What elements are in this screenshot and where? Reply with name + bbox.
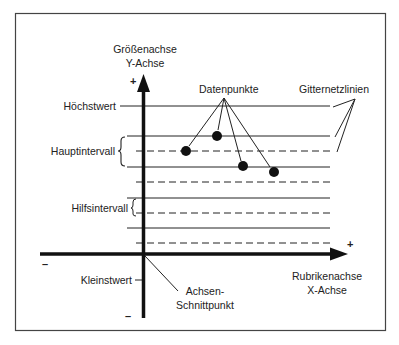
x-axis-plus-sign: + bbox=[347, 239, 353, 250]
major-gridlines bbox=[120, 106, 330, 228]
data-point-callouts bbox=[189, 98, 270, 167]
y-axis-title-line1: Größenachse bbox=[100, 43, 190, 55]
x-axis bbox=[40, 248, 348, 261]
major-interval-label: Hauptintervall bbox=[20, 145, 115, 157]
y-axis-minus-sign: – bbox=[125, 311, 131, 322]
data-points bbox=[181, 131, 279, 177]
data-point bbox=[212, 131, 222, 141]
max-value-label: Höchstwert bbox=[20, 100, 116, 112]
y-axis-plus-sign: + bbox=[130, 76, 136, 87]
gridlines-label: Gitternetzlinien bbox=[299, 83, 369, 95]
min-value-label: Kleinstwert bbox=[20, 274, 132, 286]
x-axis-minus-sign: – bbox=[42, 259, 48, 270]
y-axis-title: Größenachse Y-Achse bbox=[100, 43, 190, 69]
data-point bbox=[238, 161, 248, 171]
axis-intersection-label: Achsen- Schnittpunkt bbox=[165, 285, 245, 311]
y-axis-title-line2: Y-Achse bbox=[100, 57, 190, 69]
y-axis-arrowhead-icon bbox=[137, 74, 150, 92]
gridline-callouts bbox=[333, 99, 355, 152]
x-axis-title: Rubrikenachse X-Achse bbox=[272, 270, 382, 296]
minor-gridlines bbox=[136, 151, 330, 243]
x-axis-arrowhead-icon bbox=[330, 248, 348, 261]
y-axis bbox=[137, 74, 150, 318]
x-axis-title-line2: X-Achse bbox=[272, 284, 382, 296]
x-axis-title-line1: Rubrikenachse bbox=[272, 270, 382, 282]
minor-interval-label: Hilfsintervall bbox=[20, 202, 128, 214]
data-point bbox=[269, 167, 279, 177]
major-interval-brace bbox=[118, 137, 125, 166]
data-point bbox=[181, 146, 191, 156]
data-points-label: Datenpunkte bbox=[199, 83, 259, 95]
axis-intersection-line1: Achsen- bbox=[165, 285, 245, 297]
chart-elements-diagram: Größenachse Y-Achse + – Höchstwert Haupt… bbox=[0, 0, 399, 345]
axis-intersection-line2: Schnittpunkt bbox=[165, 299, 245, 311]
minor-interval-brace bbox=[131, 199, 136, 216]
